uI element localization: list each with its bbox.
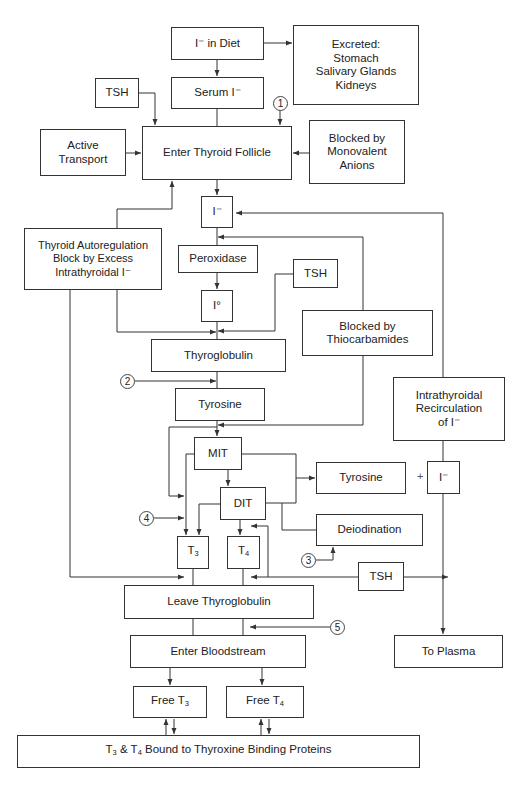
mit-label: MIT (208, 447, 228, 461)
autoregulation-box: Thyroid Autoregulation Block by Excess I… (24, 228, 162, 290)
thyroglobulin-label: Thyroglobulin (184, 349, 253, 363)
thyroglobulin-box: Thyroglobulin (151, 339, 286, 372)
excreted-box: Excreted: Stomach Salivary Glands Kidney… (293, 25, 419, 105)
t4-label: T4 (238, 544, 249, 561)
serum-iodide-box: Serum I⁻ (171, 77, 264, 109)
bound-proteins-label: T3 & T4 Bound to Thyroxine Binding Prote… (106, 743, 332, 760)
peroxidase-label: Peroxidase (189, 252, 247, 266)
peroxidase-box: Peroxidase (178, 245, 258, 273)
tyrosine-right-box: Tyrosine (316, 462, 406, 494)
excreted-label: Excreted: Stomach Salivary Glands Kidney… (316, 38, 397, 92)
tsh-mid-box: TSH (293, 259, 338, 288)
dit-box: DIT (220, 487, 266, 520)
enter-follicle-label: Enter Thyroid Follicle (163, 146, 271, 160)
blocked-thiocarbamides-label: Blocked by Thiocarbamides (327, 320, 409, 347)
tyrosine-box: Tyrosine (175, 388, 265, 421)
enter-follicle-box: Enter Thyroid Follicle (142, 126, 292, 180)
tsh-bottom-box: TSH (358, 562, 404, 591)
iodide-label: I⁻ (212, 205, 221, 219)
to-plasma-box: To Plasma (394, 635, 503, 668)
iodine-box: I° (201, 290, 233, 322)
autoregulation-label: Thyroid Autoregulation Block by Excess I… (38, 239, 148, 280)
deiodination-box: Deiodination (316, 514, 423, 546)
free-t4-label: Free T4 (246, 694, 284, 711)
t3-label: T3 (187, 544, 198, 561)
iodide-right-box: I⁻ (427, 461, 460, 494)
mit-box: MIT (194, 437, 242, 470)
free-t3-box: Free T3 (133, 686, 207, 718)
tyrosine-right-label: Tyrosine (339, 471, 382, 485)
tsh-mid-label: TSH (304, 267, 327, 281)
t3-box: T3 (177, 536, 209, 569)
marker-2: 2 (120, 374, 135, 389)
diet-label: I⁻ in Diet (195, 37, 240, 51)
dit-label: DIT (234, 497, 253, 511)
iodide-box: I⁻ (201, 196, 233, 228)
blocked-monovalent-label: Blocked by Monovalent Anions (327, 132, 386, 173)
plus-sign: + (417, 470, 423, 482)
marker-1: 1 (273, 96, 288, 111)
enter-bloodstream-label: Enter Bloodstream (170, 645, 265, 659)
t4-box: T4 (227, 536, 260, 569)
tsh-bottom-label: TSH (370, 570, 393, 584)
deiodination-label: Deiodination (338, 523, 402, 537)
active-transport-label: Active Transport (59, 139, 108, 166)
tsh-top-box: TSH (95, 78, 139, 108)
free-t4-box: Free T4 (226, 686, 304, 718)
iodide-right-label: I⁻ (439, 471, 448, 485)
blocked-monovalent-box: Blocked by Monovalent Anions (309, 120, 405, 184)
blocked-thiocarbamides-box: Blocked by Thiocarbamides (302, 310, 433, 356)
iodine-label: I° (213, 299, 221, 313)
marker-4: 4 (139, 511, 154, 526)
tsh-top-label: TSH (106, 86, 129, 100)
to-plasma-label: To Plasma (422, 645, 476, 659)
leave-thyroglobulin-box: Leave Thyroglobulin (124, 585, 314, 619)
enter-bloodstream-box: Enter Bloodstream (130, 635, 306, 668)
diet-iodide-box: I⁻ in Diet (171, 27, 264, 60)
marker-3: 3 (301, 553, 316, 568)
tyrosine-label: Tyrosine (198, 398, 241, 412)
leave-thyroglobulin-label: Leave Thyroglobulin (167, 595, 270, 609)
bound-proteins-box: T3 & T4 Bound to Thyroxine Binding Prote… (17, 735, 420, 768)
active-transport-box: Active Transport (40, 129, 126, 176)
serum-label: Serum I⁻ (194, 86, 240, 100)
recirculation-label: Intrathyroidal Recirculation of I⁻ (416, 389, 482, 430)
recirculation-box: Intrathyroidal Recirculation of I⁻ (393, 377, 505, 441)
free-t3-label: Free T3 (151, 694, 189, 711)
marker-5: 5 (330, 620, 345, 635)
